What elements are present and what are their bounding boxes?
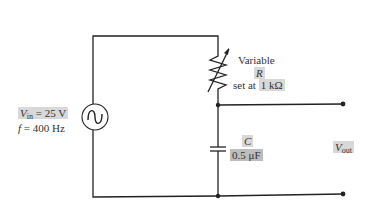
vin-value: = 25 V [36,107,66,119]
terminal-dot-bottom[interactable] [341,192,346,197]
resistor-value: 1 kΩ [259,79,285,91]
junction-dot-top [216,103,220,107]
wire-left-top [93,36,218,104]
freq-symbol: f [18,122,21,134]
sine-wave-icon [88,111,102,124]
resistor-prefix: set at [233,79,256,91]
terminal-dot-top[interactable] [341,102,346,107]
junction-dot-bottom [216,194,220,198]
vin-subscript: in [27,112,33,121]
vout-subscript: out [342,146,352,155]
vout-label: Vout [333,141,354,153]
capacitor-value: 0.5 μF [230,149,263,161]
vout-symbol: V [335,141,342,153]
wire-left-bottom [93,130,218,197]
vin-symbol: V [20,107,27,119]
resistor-variable-label: Variable [238,54,275,66]
vin-label: Vin = 25 V [18,107,68,119]
capacitor-symbol-label: C [242,135,253,147]
resistor-symbol-label: R [254,67,265,79]
resistor-value-label: set at 1 kΩ [233,79,285,91]
wire-output-bottom [218,194,343,196]
freq-value: = 400 Hz [24,122,65,134]
arrow-head-icon [224,48,229,55]
frequency-label: f = 400 Hz [18,122,65,134]
circuit-diagram [0,0,373,211]
wire-output-top [218,104,343,105]
resistor-symbol: R [254,67,265,79]
capacitor-value-label: 0.5 μF [230,149,263,161]
capacitor-symbol: C [242,135,253,147]
